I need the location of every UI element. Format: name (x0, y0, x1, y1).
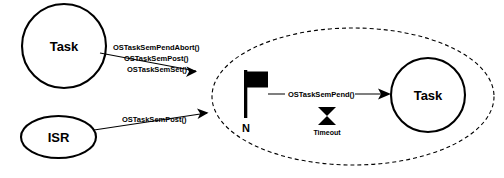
edge-label-ostasksempendabort: OSTaskSemPendAbort() (113, 43, 200, 52)
edge-label-ostasksempost-task: OSTaskSemPost() (124, 54, 189, 63)
timeout-hourglass-bottom-icon (318, 116, 336, 125)
flag-pole-icon (244, 70, 247, 118)
edge-task-to-region-arrowhead (186, 67, 197, 78)
task-semaphore-diagram: Task ISR Task OSTaskSemPendAbort() OSTas… (0, 0, 504, 178)
flag-count-label: N (242, 122, 250, 134)
isr-label: ISR (48, 130, 70, 145)
flag-banner-icon[interactable] (247, 72, 268, 88)
task-right-label: Task (414, 88, 443, 103)
timeout-hourglass-top-icon (318, 107, 336, 116)
edge-label-ostasksempend: OSTaskSemPend() (288, 90, 355, 99)
diagram-canvas: Task ISR Task OSTaskSemPendAbort() OSTas… (0, 0, 504, 178)
timeout-label: Timeout (313, 129, 341, 136)
edge-label-ostasksemset: OSTaskSemSet() (127, 65, 187, 74)
task-left-label: Task (50, 39, 79, 54)
edge-label-ostasksempost-isr: OSTaskSemPost() (122, 115, 187, 124)
